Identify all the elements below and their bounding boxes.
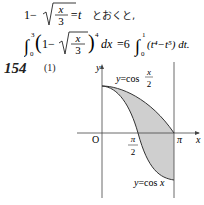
x-tick-pi: π [177,134,183,145]
y-axis-label: y [95,62,101,73]
x-tick-half-pi-den: 2 [131,147,136,157]
x-tick-half-pi-num: π [131,134,136,144]
origin-label: O [92,134,99,145]
x-axis-label: x [195,134,201,145]
curve1-frac-den: 2 [147,79,152,89]
curve1-label: y=cos [115,73,140,84]
curve1-frac-num: x [146,67,151,77]
y-axis-arrow-icon [100,64,104,69]
curve2-label: y=cos x [133,177,165,188]
graph: y x O π π 2 y=cos x 2 y=cos x [0,0,204,205]
